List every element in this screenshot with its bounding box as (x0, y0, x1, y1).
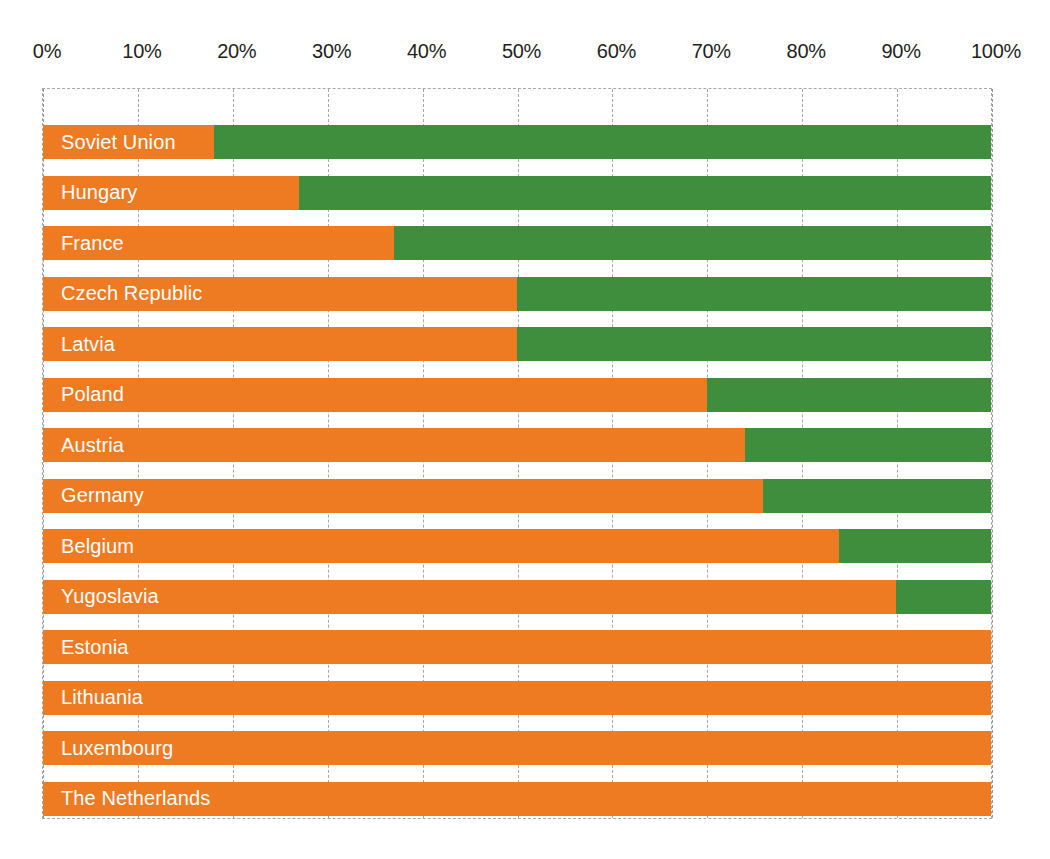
stacked-bar-chart: 0%10%20%30%40%50%60%70%80%90%100% Soviet… (0, 0, 1050, 859)
x-axis-tick-labels: 0%10%20%30%40%50%60%70%80%90%100% (0, 40, 1050, 70)
bar-segment-secondary[interactable] (394, 226, 991, 260)
bar-segment-secondary[interactable] (707, 378, 991, 412)
bar-segment-primary[interactable] (43, 782, 991, 816)
bar-segment-primary[interactable] (43, 479, 763, 513)
x-axis-tick-label: 80% (787, 40, 826, 63)
bar-segment-primary[interactable] (43, 580, 896, 614)
bar-row[interactable]: Belgium (43, 529, 991, 563)
bar-segment-secondary[interactable] (517, 277, 991, 311)
x-axis-tick-label: 90% (882, 40, 921, 63)
bar-segment-secondary[interactable] (763, 479, 991, 513)
bars-layer: Soviet UnionHungaryFranceCzech RepublicL… (43, 89, 991, 818)
bar-row[interactable]: Soviet Union (43, 125, 991, 159)
bar-row[interactable]: Yugoslavia (43, 580, 991, 614)
x-axis-tick-label: 10% (122, 40, 161, 63)
gridline (992, 89, 993, 818)
x-axis-tick-label: 60% (597, 40, 636, 63)
x-axis-tick-label: 40% (407, 40, 446, 63)
bar-segment-secondary[interactable] (517, 327, 991, 361)
bar-segment-secondary[interactable] (299, 176, 991, 210)
bar-segment-primary[interactable] (43, 731, 991, 765)
bar-row[interactable]: Poland (43, 378, 991, 412)
bar-segment-secondary[interactable] (896, 580, 991, 614)
x-axis-tick-label: 100% (971, 40, 1021, 63)
bar-segment-primary[interactable] (43, 226, 394, 260)
bar-row[interactable]: France (43, 226, 991, 260)
bar-segment-primary[interactable] (43, 277, 517, 311)
bar-segment-primary[interactable] (43, 125, 214, 159)
bar-segment-primary[interactable] (43, 630, 991, 664)
plot-area: Soviet UnionHungaryFranceCzech RepublicL… (42, 88, 992, 819)
bar-segment-primary[interactable] (43, 529, 839, 563)
x-axis-tick-label: 30% (312, 40, 351, 63)
bar-segment-primary[interactable] (43, 176, 299, 210)
bar-row[interactable]: Germany (43, 479, 991, 513)
bar-segment-primary[interactable] (43, 681, 991, 715)
bar-row[interactable]: The Netherlands (43, 782, 991, 816)
bar-segment-primary[interactable] (43, 428, 745, 462)
x-axis-tick-label: 20% (217, 40, 256, 63)
bar-row[interactable]: Latvia (43, 327, 991, 361)
bar-row[interactable]: Lithuania (43, 681, 991, 715)
x-axis-tick-label: 70% (692, 40, 731, 63)
bar-row[interactable]: Luxembourg (43, 731, 991, 765)
bar-row[interactable]: Hungary (43, 176, 991, 210)
bar-segment-secondary[interactable] (214, 125, 991, 159)
bar-row[interactable]: Czech Republic (43, 277, 991, 311)
bar-segment-primary[interactable] (43, 378, 707, 412)
bar-row[interactable]: Estonia (43, 630, 991, 664)
x-axis-tick-label: 0% (33, 40, 61, 63)
bar-segment-primary[interactable] (43, 327, 517, 361)
bar-row[interactable]: Austria (43, 428, 991, 462)
x-axis-tick-label: 50% (502, 40, 541, 63)
bar-segment-secondary[interactable] (839, 529, 991, 563)
bar-segment-secondary[interactable] (745, 428, 991, 462)
